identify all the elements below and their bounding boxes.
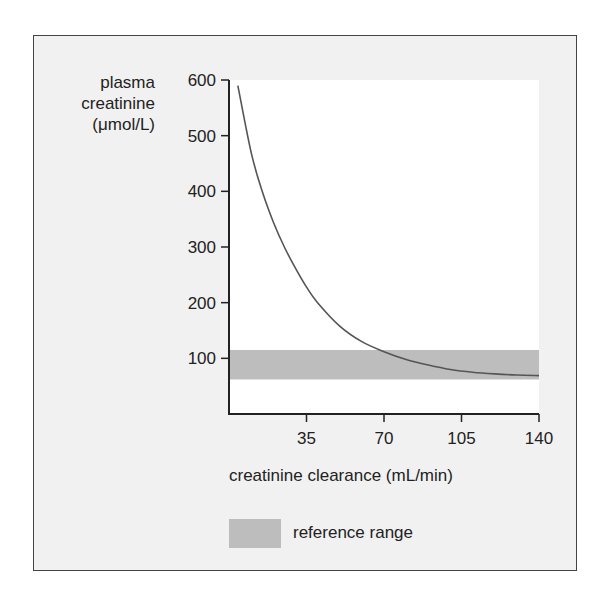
y-tick-label: 300 xyxy=(188,238,216,257)
legend-label: reference range xyxy=(293,523,413,543)
x-tick-label: 70 xyxy=(375,429,394,448)
y-tick-label: 500 xyxy=(188,127,216,146)
reference-range-band xyxy=(229,350,539,380)
y-tick-label: 200 xyxy=(188,294,216,313)
x-axis-ticks: 3570105140 xyxy=(297,414,553,448)
x-tick-label: 105 xyxy=(447,429,475,448)
y-tick-label: 600 xyxy=(188,71,216,90)
y-axis-ticks: 100200300400500600 xyxy=(188,71,229,368)
chart-svg: 100200300400500600 3570105140 xyxy=(0,0,607,594)
x-tick-label: 140 xyxy=(525,429,553,448)
y-tick-label: 400 xyxy=(188,182,216,201)
y-tick-label: 100 xyxy=(188,349,216,368)
x-tick-label: 35 xyxy=(297,429,316,448)
legend-swatch-reference-range xyxy=(229,519,281,548)
x-axis-label: creatinine clearance (mL/min) xyxy=(229,466,453,486)
legend: reference range xyxy=(229,518,413,548)
